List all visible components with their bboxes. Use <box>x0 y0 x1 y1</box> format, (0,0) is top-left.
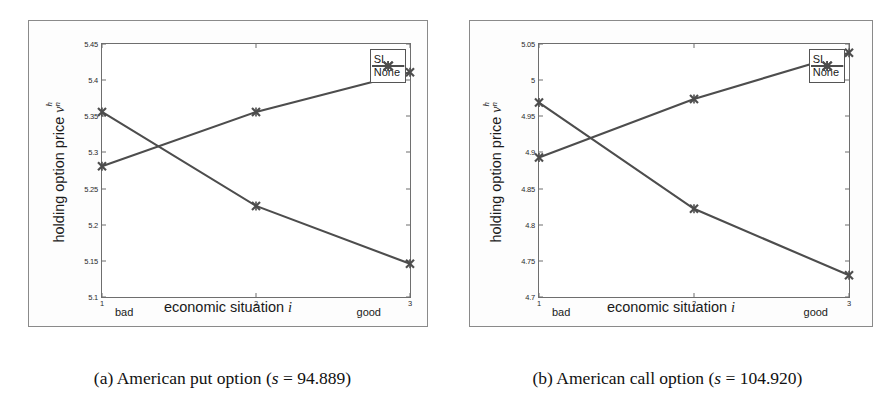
panel-b-y-tick-label: 4.75 <box>521 256 535 265</box>
panel-a-series-layer <box>102 44 410 297</box>
panel-b-axis-annotation-good: good <box>804 306 828 318</box>
panel-a-legend-line-icon <box>371 50 405 82</box>
panel-a-legend-item-none[interactable]: None <box>374 66 400 79</box>
panel-b-plot-area: 4.74.754.84.854.94.9555.05123SINone <box>538 43 850 298</box>
panel-a-line-none <box>102 112 410 264</box>
panel-a-caption-prefix: (a) American put option ( <box>94 368 272 388</box>
panel-b-marker-none <box>845 271 853 280</box>
panel-b-y-axis-label: holding option price vhn <box>487 99 506 242</box>
panel-b-caption: (b) American call option (s = 104.920) <box>445 368 890 389</box>
panel-b-x-axis-label-text: economic situation <box>607 299 731 315</box>
panel-b-y-tick-label: 4.95 <box>521 112 535 121</box>
panel-a-x-axis-label-symbol: i <box>288 299 292 315</box>
panel-b-series-layer <box>539 44 849 297</box>
panel-b-y-axis-label-script: hn <box>487 99 502 106</box>
panel-a-caption-symbol: s <box>272 368 279 388</box>
panel-a-y-tick-label: 5.15 <box>84 256 98 265</box>
panel-a-plot-area: 5.15.155.25.255.35.355.45.45123SINone <box>101 43 411 298</box>
panel-a-caption: (a) American put option (s = 94.889) <box>0 368 445 389</box>
panel-a-line-si <box>102 72 410 166</box>
panel-b-marker-none <box>690 204 698 213</box>
panel-a-y-tick-label: 5.25 <box>84 184 98 193</box>
figure-panel-a: holding option price vhn 5.15.155.25.255… <box>0 0 445 395</box>
panel-a-y-axis-label-text: holding option price <box>51 113 67 243</box>
panel-b-legend[interactable]: SINone <box>809 49 845 83</box>
panel-b-y-tick-label: 5.05 <box>521 40 535 49</box>
panel-a-axis-annotation-good: good <box>357 306 381 318</box>
panel-b-y-axis-label-text: holding option price <box>488 113 504 243</box>
panel-a-axis-annotation-bad: bad <box>115 306 133 318</box>
panel-b-y-tick-label: 4.9 <box>525 148 535 157</box>
panel-a-y-tick-label: 5.2 <box>88 220 98 229</box>
panel-a-y-axis-label: holding option price vhn <box>50 99 69 242</box>
panel-b-line-si <box>539 53 849 158</box>
panel-b-caption-value: = 104.920) <box>721 368 802 388</box>
panel-a-y-tick-label: 5.3 <box>88 148 98 157</box>
panel-a-frame: holding option price vhn 5.15.155.25.255… <box>28 20 428 327</box>
panel-b-line-none <box>539 103 849 276</box>
panel-b-x-axis-label-symbol: i <box>731 299 735 315</box>
figure-row: holding option price vhn 5.15.155.25.255… <box>0 0 890 395</box>
panel-b-y-axis-label-subscript: n <box>489 102 499 107</box>
panel-b-y-axis-label-symbol: v <box>489 106 504 112</box>
panel-a-y-axis-label-subscript: n <box>52 102 62 107</box>
panel-b-y-tick-label: 5 <box>531 76 535 85</box>
panel-a-y-tick-label: 5.35 <box>84 112 98 121</box>
panel-b-marker-none <box>535 98 543 107</box>
figure-panel-b: holding option price vhn 4.74.754.84.854… <box>445 0 890 395</box>
panel-a-marker-none <box>98 107 106 116</box>
panel-a-y-axis-label-script: hn <box>50 99 65 106</box>
panel-a-legend[interactable]: SINone <box>370 49 406 83</box>
panel-b-frame: holding option price vhn 4.74.754.84.854… <box>469 20 873 327</box>
panel-a-y-axis-label-symbol: v <box>52 106 67 112</box>
panel-b-legend-item-none[interactable]: None <box>813 66 839 79</box>
panel-b-caption-prefix: (b) American call option ( <box>533 368 715 388</box>
panel-b-y-tick-label: 4.8 <box>525 220 535 229</box>
panel-a-y-tick-label: 5.45 <box>84 40 98 49</box>
panel-b-axis-annotation-bad: bad <box>552 306 570 318</box>
panel-a-y-tick-label: 5.4 <box>88 76 98 85</box>
panel-a-x-axis-label-text: economic situation <box>164 299 288 315</box>
panel-b-y-tick-label: 4.85 <box>521 184 535 193</box>
panel-b-legend-line-icon <box>810 50 844 82</box>
panel-a-caption-value: = 94.889) <box>279 368 352 388</box>
